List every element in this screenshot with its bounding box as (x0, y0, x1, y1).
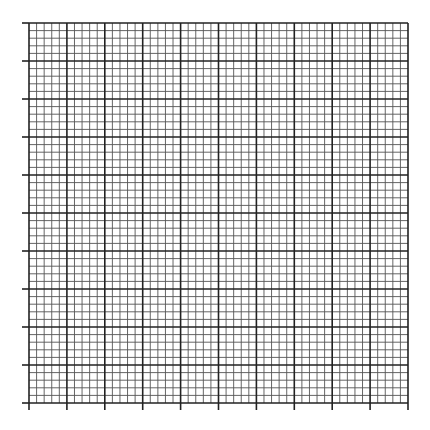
graph-paper-grid (0, 0, 430, 430)
major-grid-lines (29, 23, 408, 403)
axis-tick-marks (22, 23, 408, 410)
